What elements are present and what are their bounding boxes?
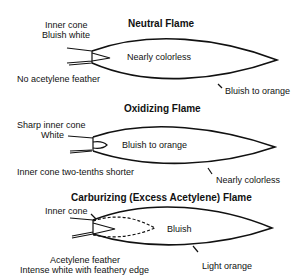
oxidizing-shorter-label: Inner cone two-tenths shorter — [17, 167, 134, 177]
neutral-feather-label: No acetylene feather — [17, 74, 100, 84]
oxidizing-inner-cone-color-label: White — [41, 130, 64, 140]
oxidizing-inner-cone-label: Sharp inner cone — [17, 120, 86, 130]
oxidizing-outer-label: Nearly colorless — [216, 175, 280, 185]
carburizing-outer-label: Light orange — [202, 261, 252, 271]
oxidizing-body-label: Bluish to orange — [122, 140, 187, 150]
carburizing-feather-label: Acetylene feather — [50, 255, 120, 265]
carburizing-flame-title: Carburizing (Excess Acetylene) Flame — [71, 192, 252, 203]
neutral-inner-cone-label: Inner cone — [45, 20, 88, 30]
neutral-body-label: Nearly colorless — [127, 52, 191, 62]
oxidizing-flame-title: Oxidizing Flame — [124, 103, 201, 114]
carburizing-body-label: Bluish — [167, 224, 192, 234]
carburizing-inner-cone-label: Inner cone — [45, 206, 88, 216]
neutral-inner-cone-color-label: Bluish white — [42, 30, 90, 40]
neutral-flame-title: Neutral Flame — [128, 18, 194, 29]
neutral-outer-label: Bluish to orange — [225, 86, 290, 96]
carburizing-feather-edge-label: Intense white with feathery edge — [20, 265, 149, 275]
